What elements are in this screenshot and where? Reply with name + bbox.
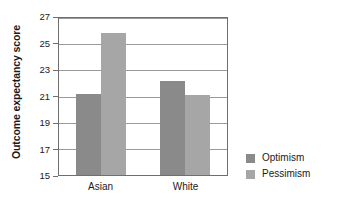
y-tick-27: 27 xyxy=(0,11,58,23)
bar-pessimism-asian xyxy=(101,33,126,175)
legend: OptimismPessimism xyxy=(246,150,336,182)
bar-optimism-asian xyxy=(76,94,101,175)
y-axis-tick-labels: 27252321191715 xyxy=(0,17,58,176)
legend-label: Pessimism xyxy=(262,166,310,182)
legend-label: Optimism xyxy=(262,150,304,166)
y-tick-23: 23 xyxy=(0,64,58,76)
plot-area xyxy=(58,17,228,176)
bar-group xyxy=(59,18,143,175)
legend-item-pessimism[interactable]: Pessimism xyxy=(246,166,336,182)
legend-item-optimism[interactable]: Optimism xyxy=(246,150,336,166)
legend-swatch-icon xyxy=(246,170,255,179)
x-axis-tick-labels: AsianWhite xyxy=(58,179,228,195)
x-tick-label-white: White xyxy=(143,179,228,195)
gridline-15 xyxy=(59,175,227,176)
x-tick-label-asian: Asian xyxy=(58,179,143,195)
y-tick-15: 15 xyxy=(0,170,58,182)
y-tick-25: 25 xyxy=(0,38,58,50)
bar-chart: Outcome expectancy score 27252321191715 … xyxy=(0,0,338,208)
legend-swatch-icon xyxy=(246,154,255,163)
bar-group xyxy=(143,18,227,175)
bar-pessimism-white xyxy=(185,95,210,175)
bar-optimism-white xyxy=(160,81,185,175)
bar-groups xyxy=(59,18,227,175)
y-tick-21: 21 xyxy=(0,91,58,103)
y-tick-19: 19 xyxy=(0,117,58,129)
y-tick-17: 17 xyxy=(0,144,58,156)
